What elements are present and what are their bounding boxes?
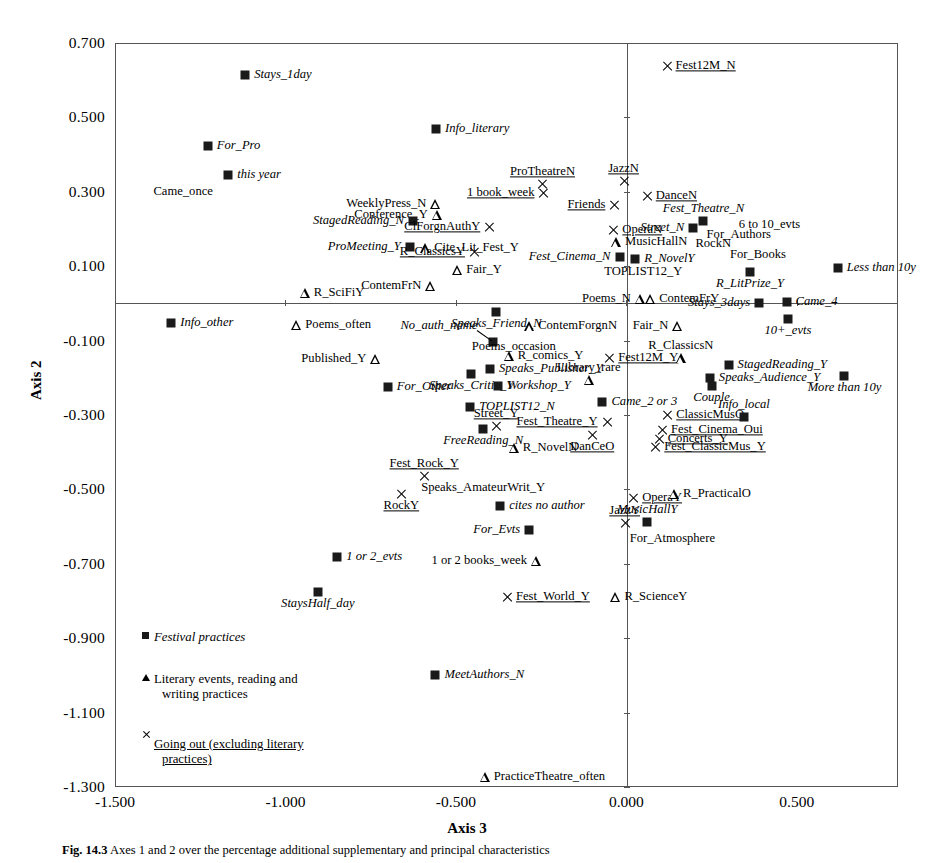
- data-point-label: For_Pro: [217, 139, 261, 152]
- data-point-marker-square: [739, 412, 748, 421]
- data-point-label: MeetAuthors_N: [444, 669, 524, 682]
- data-point-marker-square: [746, 267, 755, 276]
- data-point-label: Fest_Rock_Y: [390, 457, 459, 470]
- legend-marker-square: [142, 632, 149, 639]
- data-point-marker-square: [333, 553, 342, 562]
- data-point-marker-x: [662, 410, 673, 421]
- data-point-marker-triangle: [531, 556, 541, 566]
- data-point-marker-triangle: [425, 281, 435, 291]
- data-point-label: Street_Y: [474, 408, 519, 421]
- data-point-marker-x: [650, 442, 661, 453]
- data-point-marker-square: [479, 424, 488, 433]
- data-point-marker-triangle: [611, 237, 621, 247]
- data-point-marker-triangle: [672, 321, 682, 331]
- y-tick-label: 0.300: [5, 183, 105, 201]
- y-tick-label: -1.100: [5, 704, 105, 722]
- data-point-label: 1 or 2_evts: [346, 551, 402, 564]
- data-point-label: Fest12M_Y: [618, 352, 678, 365]
- data-point-marker-square: [494, 381, 503, 390]
- x-tick: [456, 300, 457, 306]
- data-point-marker-x: [601, 417, 612, 428]
- data-point-label: StagedReading_N: [313, 215, 404, 228]
- data-point-marker-triangle: [524, 321, 534, 331]
- data-point-label: Came_once: [153, 185, 212, 198]
- data-point-marker-triangle: [300, 288, 310, 298]
- data-point-marker-triangle: [509, 443, 519, 453]
- data-point-label: ProMeeting_Y: [328, 240, 401, 253]
- data-point-label: 1 or 2 books_week: [431, 555, 527, 568]
- y-tick-label: -0.300: [5, 406, 105, 424]
- data-point-marker-x: [538, 187, 549, 198]
- data-point-marker-square: [598, 398, 607, 407]
- data-point-marker-square: [699, 216, 708, 225]
- y-tick-label: 0.100: [5, 257, 105, 275]
- y-tick-label: -0.900: [5, 629, 105, 647]
- legend-item: Literary events, reading andwriting prac…: [142, 672, 304, 703]
- data-point-marker-x: [491, 421, 502, 432]
- data-point-label: For_Books: [730, 248, 786, 261]
- data-point-marker-square: [431, 671, 440, 680]
- data-point-marker-x: [618, 175, 629, 186]
- y-tick: [624, 489, 630, 490]
- data-point-label: JazzN: [608, 162, 639, 175]
- data-point-label: this year: [237, 168, 281, 181]
- data-point-label: Fair_N: [633, 319, 669, 332]
- figure-caption: Fig. 14.3 Axes 1 and 2 over the percenta…: [62, 843, 934, 863]
- data-point-label: Fest_World_Y: [516, 591, 590, 604]
- data-point-marker-square: [783, 315, 792, 324]
- data-point-label: Poems_often: [305, 318, 371, 331]
- data-point-marker-x: [608, 225, 619, 236]
- data-point-label: MusicHallN: [625, 236, 687, 249]
- legend-label-line2: practices): [142, 752, 304, 768]
- legend-item: Festival practices: [142, 630, 304, 646]
- data-point-marker-x: [619, 517, 630, 528]
- y-tick: [624, 192, 630, 193]
- y-tick-label: -1.300: [5, 778, 105, 796]
- y-tick-label: 0.500: [5, 108, 105, 126]
- legend-label: Festival practices: [142, 630, 304, 646]
- data-point-marker-square: [203, 142, 212, 151]
- data-point-label: Speaks_Audience_Y: [719, 371, 820, 384]
- data-point-marker-square: [782, 297, 791, 306]
- legend-label: Literary events, reading and: [142, 672, 304, 688]
- data-point-label: Fest_Theatre_Y: [516, 416, 597, 429]
- data-point-marker-triangle: [430, 199, 440, 209]
- data-point-marker-triangle: [584, 375, 594, 385]
- data-point-label: 10+_evts: [764, 324, 811, 337]
- data-point-marker-x: [468, 246, 479, 257]
- data-point-label: PracticeTheatre_often: [494, 770, 605, 783]
- data-point-marker-square: [492, 308, 501, 317]
- data-point-marker-square: [755, 298, 764, 307]
- data-point-label: RockN: [695, 237, 731, 250]
- data-point-label: Came_2 or 3: [611, 396, 677, 409]
- data-point-label: Fest_ClassicMus_Y: [664, 441, 765, 454]
- figure-container: 0.7000.5000.3000.100-0.100-0.300-0.500-0…: [0, 0, 934, 863]
- data-point-marker-square: [615, 252, 624, 261]
- data-point-label: R_NovelN: [523, 441, 578, 454]
- data-point-label: StaysHalf_day: [281, 597, 354, 610]
- data-point-marker-triangle: [504, 351, 514, 361]
- data-point-label: R_ScienceY: [624, 591, 687, 604]
- data-point-label: Friends: [568, 198, 606, 211]
- legend-marker-x: [142, 731, 150, 739]
- data-point-label: R_SciFiY: [314, 286, 364, 299]
- data-point-marker-square: [631, 254, 640, 263]
- data-point-label: TOPLIST12_Y: [604, 265, 682, 278]
- data-point-marker-triangle: [480, 772, 490, 782]
- data-point-label: Fest12M_N: [676, 60, 736, 73]
- data-point-label: 1 book_week: [467, 186, 535, 199]
- x-tick: [285, 300, 286, 306]
- y-tick: [624, 638, 630, 639]
- data-point-label: DanceN: [656, 189, 697, 202]
- data-point-marker-x: [502, 592, 513, 603]
- data-point-marker-square: [432, 124, 441, 133]
- caption-text: Axes 1 and 2 over the percentage additio…: [110, 843, 550, 857]
- data-point-marker-square: [643, 518, 652, 527]
- legend-item: Going out (excluding literarypractices): [142, 729, 304, 768]
- data-point-marker-x: [609, 199, 620, 210]
- data-point-label: Library_rare: [557, 361, 621, 374]
- data-point-label: Stays_3days: [688, 296, 750, 309]
- data-point-marker-square: [833, 264, 842, 273]
- x-tick-label: -0.500: [436, 793, 476, 811]
- legend-label-line2: writing practices: [142, 687, 304, 703]
